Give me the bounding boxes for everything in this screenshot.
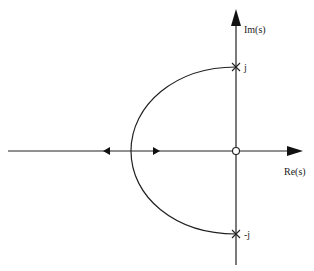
real-axis-arrow-icon: [287, 146, 303, 156]
locus-arrow-left-icon: [103, 147, 110, 155]
root-locus-diagram: Im(s) Re(s) j -j: [0, 0, 314, 271]
locus-arrow-right-icon: [153, 147, 160, 155]
pole-j-label: j: [243, 62, 247, 73]
imag-axis-arrow-icon: [231, 9, 241, 26]
pole-neg-j-label: -j: [244, 229, 250, 240]
real-axis-label: Re(s): [284, 166, 306, 178]
zero-origin-icon: [233, 148, 240, 155]
imag-axis-label: Im(s): [244, 24, 266, 36]
